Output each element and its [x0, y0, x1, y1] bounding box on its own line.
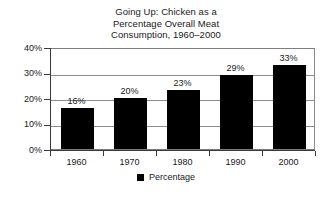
- chart-title-line-2: Percentage Overall Meat: [0, 18, 332, 30]
- x-axis-tick: [262, 151, 263, 156]
- y-axis-tick-label: 0%: [0, 146, 42, 155]
- x-axis-tick: [156, 151, 157, 156]
- bar-value-label: 33%: [262, 54, 316, 63]
- x-axis-tick-label: 1960: [50, 157, 103, 167]
- y-axis-tick-label: 30%: [0, 69, 42, 78]
- chart-title-line-1: Going Up: Chicken as a: [0, 6, 332, 18]
- x-axis-tick: [315, 151, 316, 156]
- y-axis-tick: [44, 125, 50, 126]
- y-axis-tick: [44, 48, 50, 49]
- x-axis-tick-label: 1970: [103, 157, 156, 167]
- bar-value-label: 16%: [50, 97, 104, 106]
- chart-title: Going Up: Chicken as a Percentage Overal…: [0, 6, 332, 41]
- bar: [220, 75, 254, 149]
- legend-label: Percentage: [149, 173, 195, 182]
- y-axis-tick-label: 10%: [0, 120, 42, 129]
- x-axis-tick: [209, 151, 210, 156]
- y-axis-tick-label: 20%: [0, 95, 42, 104]
- x-axis-tick-label: 1990: [209, 157, 262, 167]
- bar: [114, 98, 148, 149]
- chart-figure: Going Up: Chicken as a Percentage Overal…: [0, 0, 332, 197]
- bar-value-label: 29%: [209, 64, 263, 73]
- x-axis-line: [50, 150, 315, 151]
- bar-value-label: 20%: [103, 87, 157, 96]
- legend-swatch-icon: [137, 174, 144, 181]
- chart-legend: Percentage: [0, 173, 332, 182]
- x-axis-tick-label: 2000: [262, 157, 315, 167]
- bar: [273, 65, 307, 149]
- bar-value-label: 23%: [156, 79, 210, 88]
- x-axis-tick: [103, 151, 104, 156]
- x-axis-tick: [50, 151, 51, 156]
- chart-title-line-3: Consumption, 1960–2000: [0, 29, 332, 41]
- bar: [61, 108, 95, 149]
- bar: [167, 90, 201, 149]
- x-axis-tick-label: 1980: [156, 157, 209, 167]
- y-axis-tick-labels: 0%10%20%30%40%: [0, 0, 42, 197]
- y-axis-tick-label: 40%: [0, 44, 42, 53]
- y-axis-tick: [44, 74, 50, 75]
